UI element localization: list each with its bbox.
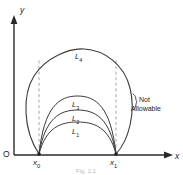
y-axis-label: y [20,6,24,15]
figure-caption: Fig. 2.1 [76,168,96,174]
point-label-x1: x1 [110,159,117,169]
curve-label-L1-sub: 1 [76,132,79,138]
curve-label-L3: L3 [72,101,79,111]
x-axis-label: x [175,152,179,161]
figure-container: y x O x0 x1 L4 L3 L2 L1 Not Allowable Fi… [0,0,183,175]
curve-label-L4: L4 [75,53,82,63]
origin-label: O [3,150,10,159]
endpoint-dot-x1 [114,152,118,156]
point-label-x0: x0 [33,159,40,169]
curve-label-L1: L1 [72,128,79,138]
point-label-x0-sub: 0 [37,163,40,169]
not-allowable-line1: Not [139,96,161,105]
curve-label-L2-sub: 2 [76,119,79,125]
curve-label-L4-sub: 4 [79,57,82,63]
curve-L1 [39,122,116,154]
curve-label-L3-sub: 3 [76,105,79,111]
figure-drawing [0,0,183,175]
endpoint-dot-x0 [37,152,41,156]
point-label-x1-sub: 1 [114,163,117,169]
y-axis [11,15,18,155]
not-allowable-line2: Allowable [131,105,161,114]
curve-label-L2: L2 [72,115,79,125]
not-allowable-annotation: Not Allowable [139,96,161,114]
